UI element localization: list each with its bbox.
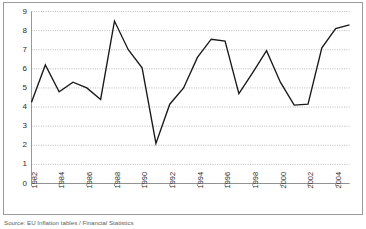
y-tick-label: 3 xyxy=(23,121,28,130)
x-tick-label: 1990 xyxy=(140,172,149,189)
y-tick-label: 0 xyxy=(23,179,28,188)
x-tick-label: 2002 xyxy=(306,172,315,189)
chart-figure: 0123456789 19821984198619881990199219941… xyxy=(0,0,366,229)
x-tick-label: 1986 xyxy=(85,172,94,189)
x-tick-label: 2004 xyxy=(334,172,343,189)
x-tick-label: 2000 xyxy=(279,172,288,189)
x-tick-label: 1982 xyxy=(30,172,39,189)
y-tick-label: 8 xyxy=(23,26,28,35)
y-tick-label: 5 xyxy=(23,83,28,92)
y-tick-label: 2 xyxy=(23,140,28,149)
series-line xyxy=(32,21,350,143)
axes-group xyxy=(32,12,350,187)
data-series-group xyxy=(32,21,350,143)
x-tick-label: 1996 xyxy=(223,172,232,189)
x-tick-label: 1994 xyxy=(196,172,205,189)
chart-plot-area: 0123456789 19821984198619881990199219941… xyxy=(4,3,362,214)
x-tick-label: 1998 xyxy=(251,172,260,189)
y-tick-label: 9 xyxy=(23,7,28,16)
x-tick-label: 1984 xyxy=(57,172,66,189)
y-tick-label: 4 xyxy=(23,102,28,111)
y-axis-tick-labels: 0123456789 xyxy=(23,7,28,188)
line-chart-svg: 0123456789 19821984198619881990199219941… xyxy=(4,3,364,216)
chart-plot-frame: 0123456789 19821984198619881990199219941… xyxy=(3,2,363,215)
gridlines-group xyxy=(32,12,350,184)
y-tick-label: 7 xyxy=(23,45,28,54)
y-tick-label: 6 xyxy=(23,64,28,73)
x-axis-tick-labels: 1982198419861988199019921994199619982000… xyxy=(30,172,343,189)
y-tick-label: 1 xyxy=(23,159,28,168)
source-note: Source: EU Inflation tables / Financial … xyxy=(4,219,344,227)
x-tick-label: 1992 xyxy=(168,172,177,189)
x-tick-label: 1988 xyxy=(113,172,122,189)
